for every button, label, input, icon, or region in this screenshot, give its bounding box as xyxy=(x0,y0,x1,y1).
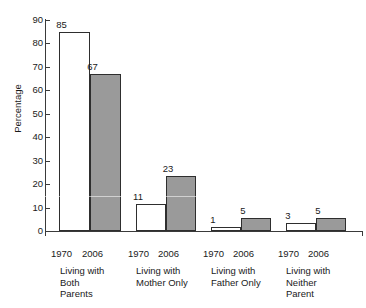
group-label-mother-only: Living with Mother Only xyxy=(136,265,216,288)
bar-1970-mother-only xyxy=(136,204,166,231)
y-tick-label-50: 50 xyxy=(17,109,43,119)
y-tick-label-0: 0 xyxy=(17,226,43,236)
bar-value-2006-neither-parent: 5 xyxy=(303,206,333,216)
y-tick-label-30: 30 xyxy=(17,156,43,166)
year-label-g3-2006: 2006 xyxy=(226,248,261,259)
bar-value-2006-both-parents: 67 xyxy=(77,62,108,72)
bar-chart: Percentage 0 10 20 30 40 50 60 70 80 90 xyxy=(0,0,366,308)
x-axis-tick-start xyxy=(45,231,46,236)
group-label-both-parents: Living with Both Parents xyxy=(60,265,135,300)
x-axis-tick-end xyxy=(362,231,363,236)
bar-2006-mother-only xyxy=(166,176,196,231)
x-axis-line xyxy=(45,231,363,232)
year-label-g1-2006: 2006 xyxy=(75,248,110,259)
year-label-g4-2006: 2006 xyxy=(301,248,336,259)
bar-1970-father-only xyxy=(211,227,241,231)
y-tick-label-40: 40 xyxy=(17,132,43,142)
y-tick-label-90: 90 xyxy=(17,15,43,25)
bar-2006-both-parents xyxy=(90,74,121,231)
bar-2006-father-only xyxy=(241,218,271,231)
bar-value-2006-mother-only: 23 xyxy=(153,164,183,174)
y-tick-label-80: 80 xyxy=(17,38,43,48)
bar-value-1970-mother-only: 11 xyxy=(123,192,153,202)
plot-area xyxy=(45,20,363,231)
y-tick-label-10: 10 xyxy=(17,203,43,213)
year-label-g1-1970: 1970 xyxy=(44,248,79,259)
group-label-father-only: Living with Father Only xyxy=(211,265,291,288)
y-tick-label-20: 20 xyxy=(17,179,43,189)
y-tick-label-70: 70 xyxy=(17,62,43,72)
bar-value-1970-father-only: 1 xyxy=(198,215,228,225)
y-tick-label-60: 60 xyxy=(17,85,43,95)
bar-value-1970-neither-parent: 3 xyxy=(273,211,303,221)
bar-value-1970-both-parents: 85 xyxy=(46,20,77,30)
bar-value-2006-father-only: 5 xyxy=(228,206,258,216)
year-label-g2-2006: 2006 xyxy=(151,248,186,259)
bar-1970-neither-parent xyxy=(286,223,316,231)
bar-2006-neither-parent xyxy=(316,218,346,231)
group-label-neither-parent: Living with Neither Parent xyxy=(286,265,364,300)
